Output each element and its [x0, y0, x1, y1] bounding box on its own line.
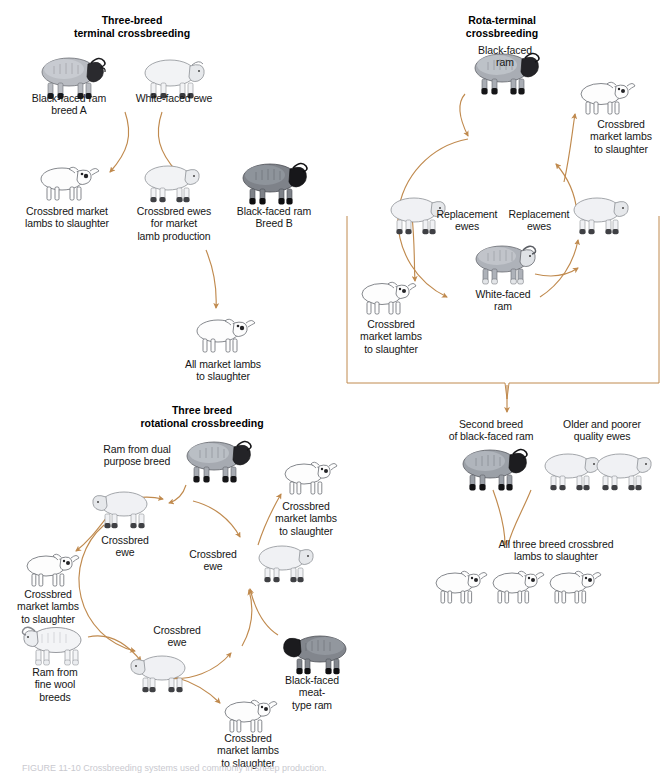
- label-replacement-ewes-left: Replacement ewes: [432, 208, 502, 233]
- label-older-poorer-quality-ewes: Older and poorer quality ewes: [548, 418, 656, 443]
- label-black-faced-ram-breed-a: Black-faced ram breed A: [10, 92, 128, 117]
- title-three-breed-rotational: Three breed rotational crossbreeding: [112, 404, 292, 429]
- animal-black-faced-meat-type-ram: [280, 628, 356, 678]
- animal-rot-market-lamb-top-right: [278, 456, 338, 498]
- label-crossbred-market-lambs-1: Crossbred market lambs to slaughter: [8, 205, 126, 230]
- label-crossbred-ewe-center: Crossbred ewe: [176, 548, 250, 573]
- animal-rot-market-lamb-bottom: [218, 694, 278, 736]
- animal-white-faced-ram: [466, 238, 542, 288]
- label-rot-market-lambs-top-right: Crossbred market lambs to slaughter: [262, 500, 350, 537]
- animal-fine-wool-ram: [20, 620, 92, 668]
- animal-crossbred-ewes: [136, 158, 206, 206]
- animal-crossbred-ewe-upper-left: [88, 484, 158, 532]
- animal-replacement-ewe-right: [565, 190, 635, 238]
- animal-older-ewe-2: [588, 446, 658, 494]
- animal-crossbred-market-lamb-1: [34, 160, 100, 204]
- figure-canvas: Black-faced ram breed A White-faced ewe: [0, 0, 670, 773]
- label-all-three-breed-crossbred-lambs: All three breed crossbred lambs to slaug…: [446, 538, 666, 563]
- label-white-faced-ewe: White-faced ewe: [122, 92, 226, 104]
- label-ram-from-dual-purpose-breed: Ram from dual purpose breed: [88, 443, 186, 468]
- label-ram-from-fine-wool-breeds: Ram from fine wool breeds: [14, 666, 96, 703]
- figure-caption: FIGURE 11-10 Crossbreeding systems used …: [22, 763, 502, 773]
- animal-crossbred-ewe-center-right: [250, 538, 320, 586]
- animal-three-breed-lamb-3: [544, 566, 602, 606]
- label-rota-black-faced-ram: Black-faced ram: [463, 44, 547, 69]
- animal-all-market-lambs: [190, 312, 256, 356]
- label-black-faced-ram-breed-b: Black-faced ram Breed B: [224, 205, 324, 230]
- label-replacement-ewes-right: Replacement ewes: [504, 208, 574, 233]
- animal-dual-purpose-ram: [176, 434, 256, 486]
- animal-rota-market-lamb-left: [355, 276, 417, 318]
- label-crossbred-ewe-lower: Crossbred ewe: [140, 624, 214, 649]
- animal-rot-market-lamb-left: [20, 548, 80, 590]
- label-crossbred-ewe-upper-left: Crossbred ewe: [88, 534, 162, 559]
- animal-crossbred-ewe-lower: [126, 648, 196, 696]
- label-crossbred-ewes: Crossbred ewes for market lamb productio…: [126, 205, 222, 242]
- animal-three-breed-lamb-1: [430, 566, 488, 606]
- animal-three-breed-lamb-2: [487, 566, 545, 606]
- animal-second-breed-black-faced-ram: [452, 442, 532, 494]
- label-second-breed-black-faced-ram: Second breed of black-faced ram: [437, 418, 545, 443]
- label-white-faced-ram: White-faced ram: [462, 288, 544, 313]
- animal-rota-market-lamb-right: [574, 76, 636, 118]
- three-breed-join-arrows: [493, 490, 531, 545]
- label-rota-market-lambs-left: Crossbred market lambs to slaughter: [348, 318, 434, 355]
- label-rota-market-lambs-right: Crossbred market lambs to slaughter: [578, 118, 664, 155]
- title-three-breed-terminal: Three-breed terminal crossbreeding: [52, 14, 212, 39]
- label-black-faced-meat-type-ram: Black-faced meat- type ram: [272, 674, 352, 711]
- animal-black-faced-ram-breed-b: [232, 156, 312, 208]
- label-all-market-lambs: All market lambs to slaughter: [168, 358, 278, 383]
- title-rota-terminal: Rota-terminal crossbreeding: [432, 14, 572, 39]
